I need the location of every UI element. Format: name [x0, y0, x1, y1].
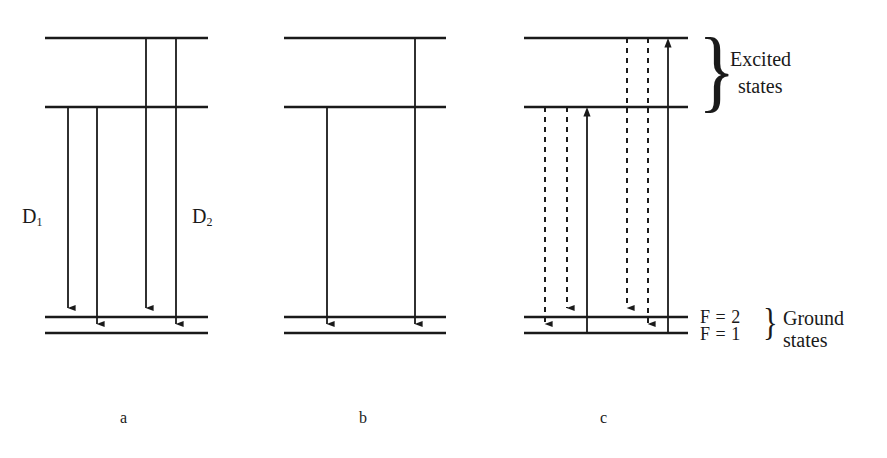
ground-states-label-line1: Ground	[783, 307, 844, 330]
excited-states-label-line1: Excited	[730, 48, 791, 71]
arrowhead-up-c-6	[664, 38, 671, 48]
panel-a	[45, 38, 208, 333]
energy-level-figure: D1 D2 } Excited states F = 2 F = 1 } Gro…	[0, 0, 887, 458]
diagram-geometry	[45, 38, 688, 333]
arrowhead-up-c-3	[583, 107, 590, 117]
hyperfine-label-f1: F = 1	[700, 325, 741, 343]
transition-label-d1: D1	[22, 206, 42, 228]
panel-label-c: c	[600, 410, 607, 426]
transition-label-d2: D2	[192, 206, 212, 228]
panel-c	[524, 38, 688, 333]
panel-label-b: b	[359, 410, 367, 426]
panel-label-a: a	[120, 410, 127, 426]
panel-b	[284, 38, 446, 333]
d1-symbol: D	[22, 205, 36, 227]
d1-subscript: 1	[36, 215, 42, 229]
d2-symbol: D	[192, 205, 206, 227]
ground-states-brace: }	[763, 303, 778, 341]
excited-states-label-line2: states	[738, 75, 782, 98]
d2-subscript: 2	[206, 215, 212, 229]
ground-states-label-line2: states	[783, 329, 827, 352]
